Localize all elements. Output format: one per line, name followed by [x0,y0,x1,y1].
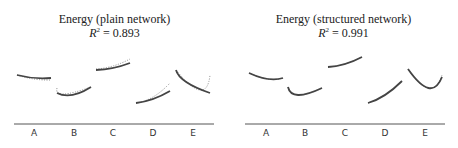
category-label-e: E [183,128,203,138]
chart-panel-structured: Energy (structured network) R2 = 0.991 A… [229,0,458,148]
category-label-a: A [256,128,276,138]
category-label-c: C [335,128,355,138]
category-label-a: A [24,128,44,138]
category-label-c: C [103,128,123,138]
chart-panel-plain: Energy (plain network) R2 = 0.893 A B C … [0,0,229,148]
predicted-curve-a [17,75,51,78]
predicted-curve-c [96,63,130,70]
category-label-d: D [375,128,395,138]
predicted-curve-e [176,70,210,93]
actual-curve-c [328,57,362,67]
predicted-curve-e [408,69,442,88]
category-label-d: D [143,128,163,138]
plot-area [229,0,458,148]
actual-curve-e [176,70,210,90]
actual-curve-d [368,81,402,103]
predicted-curve-d [368,81,402,103]
category-label-b: B [64,128,84,138]
predicted-curve-a [249,73,283,79]
category-label-b: B [295,128,315,138]
category-label-e: E [415,128,435,138]
plot-area [0,0,229,148]
predicted-curve-b [288,87,322,95]
predicted-curve-c [328,57,362,67]
predicted-curve-b [57,87,91,95]
